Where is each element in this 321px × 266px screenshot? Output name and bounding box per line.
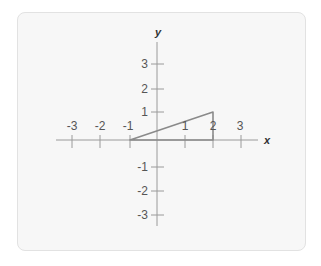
y-tick-label: -2 (137, 184, 148, 198)
coordinate-plane: -3 -2 -1 1 2 3 3 2 1 -1 -2 -3 x y (0, 0, 321, 266)
x-tick-label: 2 (210, 119, 217, 133)
x-axis-label: x (263, 134, 271, 146)
x-tick-label: 1 (182, 119, 189, 133)
x-tick-label: -2 (95, 119, 106, 133)
y-tick-label: -1 (137, 160, 148, 174)
y-tick-label: 3 (141, 57, 148, 71)
x-tick-label: -1 (123, 119, 134, 133)
y-tick-label: 1 (141, 105, 148, 119)
x-tick-label: -3 (67, 119, 78, 133)
y-axis-label: y (154, 26, 162, 38)
y-tick-label: -3 (137, 208, 148, 222)
x-tick-label: 3 (237, 119, 244, 133)
y-tick-label: 2 (141, 82, 148, 96)
